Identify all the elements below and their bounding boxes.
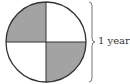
brace-label: 1 year [98, 35, 130, 46]
right-brace-icon [89, 2, 95, 82]
